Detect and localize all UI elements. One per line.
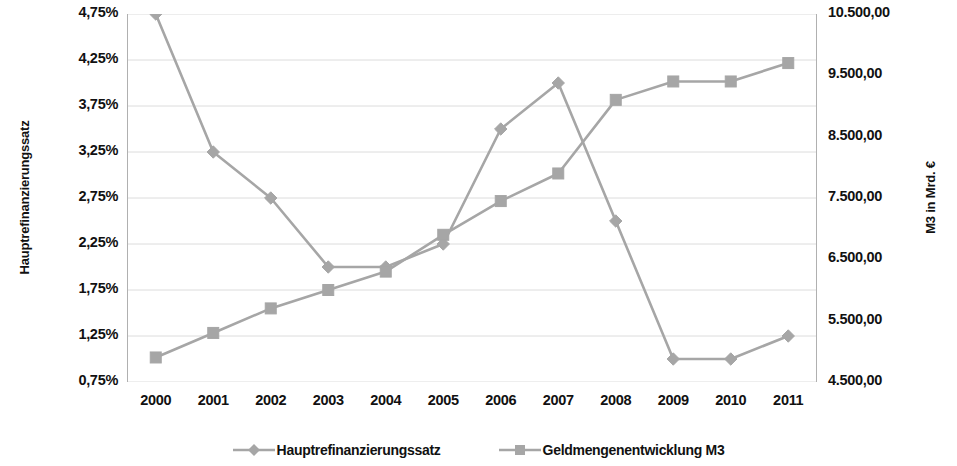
legend-label: Geldmengenentwicklung M3: [543, 442, 725, 458]
data-point-square-marker[interactable]: [668, 76, 679, 87]
y-axis-right-tick-label: 6.500,00: [828, 249, 882, 265]
y-axis-left-tick-label: 3,25%: [78, 142, 118, 158]
x-axis-tick-label: 2011: [773, 392, 803, 408]
x-axis-tick-label: 2001: [198, 392, 229, 408]
y-axis-left-tick-label: 3,75%: [78, 96, 118, 112]
y-axis-right-tick-label: 10.500,00: [828, 4, 890, 20]
data-point-diamond-marker[interactable]: [610, 215, 622, 227]
y-axis-right-ticks: 4.500,005.500,006.500,007.500,008.500,00…: [828, 0, 938, 400]
x-axis-tick-label: 2008: [600, 392, 631, 408]
plot-svg: [127, 14, 817, 382]
plot-area: [127, 14, 817, 382]
diamond-marker-icon: [233, 442, 275, 458]
y-axis-left-ticks: 0,75%1,25%1,75%2,25%2,75%3,25%3,75%4,25%…: [50, 0, 118, 400]
data-point-square-marker[interactable]: [495, 196, 506, 207]
x-axis-tick-label: 2006: [485, 392, 516, 408]
x-axis-tick-label: 2003: [313, 392, 344, 408]
data-point-square-marker[interactable]: [610, 94, 621, 105]
square-marker-icon: [499, 442, 541, 458]
chart-canvas: Hauptrefinanzierungssatz M3 in Mrd. € 0,…: [0, 0, 957, 466]
y-axis-left-tick-label: 1,75%: [78, 280, 118, 296]
y-axis-right-tick-label: 4.500,00: [828, 372, 882, 388]
data-point-diamond-marker[interactable]: [667, 353, 679, 365]
y-axis-left-tick-label: 1,25%: [78, 326, 118, 342]
y-axis-left-tick-label: 4,75%: [78, 4, 118, 20]
y-axis-left-tick-label: 2,25%: [78, 234, 118, 250]
data-point-square-marker[interactable]: [783, 58, 794, 69]
data-point-diamond-marker[interactable]: [725, 353, 737, 365]
x-axis-tick-label: 2002: [255, 392, 286, 408]
y-axis-right-tick-label: 5.500,00: [828, 311, 882, 327]
data-point-diamond-marker[interactable]: [782, 330, 794, 342]
y-axis-right-tick-label: 7.500,00: [828, 188, 882, 204]
data-point-square-marker[interactable]: [380, 266, 391, 277]
series-1: [150, 14, 795, 365]
data-point-diamond-marker[interactable]: [150, 14, 162, 20]
x-axis-tick-label: 2010: [715, 392, 746, 408]
series-line: [156, 14, 789, 359]
data-point-square-marker[interactable]: [438, 229, 449, 240]
x-axis-tick-label: 2004: [370, 392, 401, 408]
legend-entry[interactable]: Geldmengenentwicklung M3: [499, 442, 725, 458]
series-line: [156, 63, 789, 357]
y-axis-left-title: Hauptrefinanzierungssatz: [17, 78, 32, 318]
y-axis-left-tick-label: 0,75%: [78, 372, 118, 388]
data-point-square-marker[interactable]: [208, 327, 219, 338]
y-axis-right-tick-label: 9.500,00: [828, 65, 882, 81]
legend-entry[interactable]: Hauptrefinanzierungssatz: [233, 442, 441, 458]
data-point-square-marker[interactable]: [323, 285, 334, 296]
data-point-square-marker[interactable]: [725, 76, 736, 87]
series-2: [150, 58, 794, 363]
x-axis-tick-label: 2000: [140, 392, 171, 408]
x-axis-ticks: 2000200120022003200420052006200720082009…: [127, 392, 817, 420]
y-axis-left-tick-label: 4,25%: [78, 50, 118, 66]
data-point-square-marker[interactable]: [265, 303, 276, 314]
chart-legend: HauptrefinanzierungssatzGeldmengenentwic…: [0, 437, 957, 463]
y-axis-left-tick-label: 2,75%: [78, 188, 118, 204]
x-axis-tick-label: 2007: [543, 392, 574, 408]
legend-label: Hauptrefinanzierungssatz: [277, 442, 441, 458]
data-point-square-marker[interactable]: [150, 352, 161, 363]
x-axis-tick-label: 2009: [658, 392, 689, 408]
y-axis-right-tick-label: 8.500,00: [828, 127, 882, 143]
x-axis-tick-label: 2005: [428, 392, 459, 408]
data-point-square-marker[interactable]: [553, 168, 564, 179]
